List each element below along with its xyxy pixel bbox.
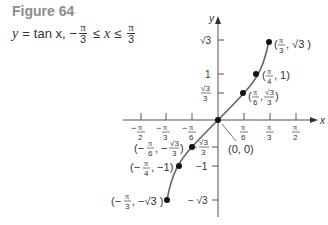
svg-text:1: 1	[205, 69, 211, 80]
y-axis-arrow-icon	[215, 16, 221, 24]
x-axis-arrow-icon	[310, 117, 318, 123]
svg-text:3: 3	[201, 148, 206, 157]
svg-text:3: 3	[172, 149, 177, 158]
svg-text:(−: (−	[134, 142, 144, 154]
svg-text:4: 4	[144, 169, 149, 178]
svg-text:6: 6	[241, 133, 246, 142]
y-axis-label: y	[208, 13, 215, 24]
svg-text:2: 2	[138, 133, 143, 142]
x-tick-labels: −π 2 −π 3 −π 6 π 6 π 3 π 2	[131, 123, 300, 142]
svg-text:6: 6	[253, 98, 258, 107]
svg-text:√3: √3	[170, 139, 179, 148]
svg-text:, −1): , −1)	[151, 161, 173, 173]
svg-text:π: π	[138, 123, 142, 132]
svg-text:π: π	[279, 36, 283, 45]
svg-text:−: −	[156, 123, 161, 133]
svg-text:π: π	[241, 123, 245, 132]
svg-text:− √3: − √3	[188, 195, 208, 206]
svg-text:3: 3	[125, 202, 130, 211]
svg-text:(−: (−	[130, 161, 140, 173]
svg-text:3: 3	[163, 133, 168, 142]
svg-text:√3: √3	[265, 88, 274, 97]
svg-text:, √3 ): , √3 )	[286, 38, 311, 50]
svg-text:√3: √3	[200, 35, 211, 46]
svg-text:, −√3 ): , −√3 )	[132, 195, 163, 207]
x-axis-label: x	[319, 115, 326, 126]
svg-text:(0, 0): (0, 0)	[228, 143, 254, 155]
svg-text:π: π	[293, 123, 297, 132]
svg-text:): )	[275, 90, 279, 102]
svg-text:2: 2	[293, 133, 298, 142]
svg-text:3: 3	[267, 133, 272, 142]
svg-text:√3: √3	[201, 84, 210, 93]
svg-text:π: π	[189, 123, 193, 132]
svg-text:): )	[180, 142, 184, 154]
svg-text:−: −	[131, 123, 136, 133]
svg-text:π: π	[267, 123, 271, 132]
svg-text:−: −	[182, 123, 187, 133]
svg-text:6: 6	[189, 133, 194, 142]
svg-text:,: ,	[260, 90, 263, 102]
svg-text:(: (	[274, 38, 278, 50]
svg-text:π: π	[163, 123, 167, 132]
svg-text:π: π	[148, 139, 152, 148]
svg-text:π: π	[144, 159, 148, 168]
svg-text:3: 3	[279, 46, 284, 55]
svg-text:4: 4	[267, 77, 272, 86]
svg-text:−1: −1	[196, 161, 208, 172]
tan-graph: x y −π 2 −π 3 −π 6 π 6 π 3 π 2	[0, 0, 328, 225]
svg-text:π: π	[253, 88, 257, 97]
svg-text:3: 3	[267, 98, 272, 107]
svg-text:, 1): , 1)	[274, 69, 290, 81]
svg-text:, −: , −	[155, 142, 168, 154]
svg-text:(: (	[248, 90, 252, 102]
svg-text:√3: √3	[199, 138, 208, 147]
svg-text:3: 3	[203, 94, 208, 103]
svg-text:π: π	[267, 67, 271, 76]
svg-text:6: 6	[148, 149, 153, 158]
svg-text:π: π	[125, 192, 129, 201]
svg-text:(: (	[262, 69, 266, 81]
svg-text:(−: (−	[111, 195, 121, 207]
